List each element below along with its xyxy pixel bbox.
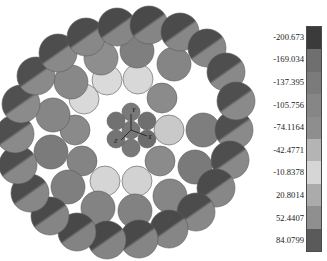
colorbar-segment-7 (307, 184, 321, 206)
colorbar-segment-4 (307, 117, 321, 139)
colorbar-tick-2: -137.395 (273, 78, 304, 87)
wire-i2 (122, 166, 152, 196)
cross-section-plot: Y X Z (0, 0, 262, 261)
wire-circle (157, 47, 191, 81)
colorbar-tick-labels: -200.673-169.034-137.395-105.756-74.1164… (262, 0, 306, 261)
wire-i1 (145, 146, 175, 176)
wire-circle (217, 82, 255, 120)
colorbar-segment-5 (307, 139, 321, 161)
colorbar-tick-6: -10.8378 (273, 168, 304, 177)
wire-circle (36, 98, 70, 132)
colorbar-legend: -200.673-169.034-137.395-105.756-74.1164… (262, 0, 327, 261)
colorbar-segment-1 (307, 49, 321, 71)
colorbar-gradient-bar (306, 26, 322, 252)
colorbar-tick-7: 20.8014 (276, 191, 304, 200)
colorbar-segment-6 (307, 161, 321, 183)
colorbar-segment-9 (307, 229, 321, 251)
colorbar-segment-3 (307, 94, 321, 116)
wire-o21 (217, 82, 255, 120)
wire-m7 (36, 98, 70, 132)
axis-label-x: X (147, 134, 152, 140)
colorbar-tick-1: -169.034 (273, 55, 304, 64)
colorbar-segment-2 (307, 72, 321, 94)
figure-root: Y X Z -200.673-169.034-137.395-105.756-7… (0, 0, 327, 261)
colorbar-segment-8 (307, 206, 321, 228)
wire-c6 (107, 112, 125, 130)
wire-circle (154, 115, 184, 145)
colorbar-segment-0 (307, 27, 321, 49)
wire-circle (122, 166, 152, 196)
colorbar-tick-5: -42.4771 (273, 146, 304, 155)
wire-circle (138, 130, 156, 148)
wire-m6 (34, 135, 68, 169)
wire-circle (123, 64, 153, 94)
colorbar-tick-4: -74.1164 (274, 123, 304, 132)
wire-i0 (154, 115, 184, 145)
wire-m11 (157, 47, 191, 81)
wire-circle (34, 135, 68, 169)
wire-circle (147, 83, 177, 113)
wire-circle (107, 112, 125, 130)
wire-c3 (138, 130, 156, 148)
wire-circle (138, 112, 156, 130)
wire-i8 (123, 64, 153, 94)
colorbar-tick-0: -200.673 (273, 33, 304, 42)
wire-circle (145, 146, 175, 176)
colorbar-tick-3: -105.756 (273, 101, 304, 110)
cross-section-svg: Y X Z (0, 0, 262, 261)
colorbar-tick-8: 52.4407 (276, 214, 304, 223)
wire-c2 (138, 112, 156, 130)
colorbar-tick-9: 84.0799 (276, 236, 304, 245)
wire-i9 (147, 83, 177, 113)
